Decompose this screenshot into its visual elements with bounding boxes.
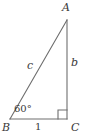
vertex-label-c: C <box>71 122 79 133</box>
vertex-label-a: A <box>62 2 70 13</box>
right-angle-mark-icon <box>58 110 67 119</box>
side-label-b: b <box>71 57 78 68</box>
vertex-label-b: B <box>2 122 10 133</box>
right-triangle-diagram: A B C b c 1 60° <box>0 0 85 138</box>
angle-label-60-degrees: 60° <box>14 104 32 114</box>
triangle-graphic <box>0 0 85 138</box>
side-label-base-length: 1 <box>35 122 41 132</box>
side-label-c: c <box>27 60 33 71</box>
